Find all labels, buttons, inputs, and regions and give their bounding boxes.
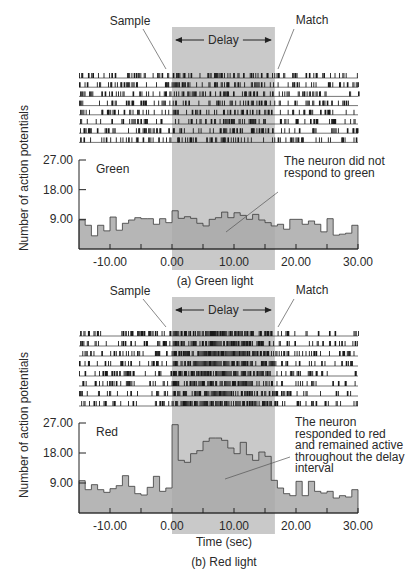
x-tick-label: 20.00 — [281, 255, 311, 269]
y-tick-label: 9.00 — [50, 212, 74, 226]
y-tick-label: 27.00 — [43, 153, 73, 167]
svg-text:respond to green: respond to green — [284, 166, 375, 180]
x-tick-label: -10.00 — [93, 519, 127, 533]
svg-text:interval: interval — [295, 461, 334, 475]
y-axis-label: Number of action potentials — [17, 352, 31, 498]
match-label: Match — [296, 13, 329, 27]
y-tick-label: 18.00 — [43, 183, 73, 197]
figure: 9.0018.0027.00-10.000.0010.0020.0030.00 … — [0, 0, 408, 588]
panel-green-light: 9.0018.0027.00-10.000.0010.0020.0030.00 … — [43, 13, 385, 288]
panel-red-light: 9.0018.0027.00-10.000.0010.0020.0030.00 … — [43, 283, 404, 569]
panel-label: Red — [96, 425, 118, 439]
match-label: Match — [296, 283, 329, 297]
panel-title: (b) Red light — [191, 555, 257, 569]
delay-label: Delay — [208, 303, 239, 317]
panel-label: Green — [96, 162, 129, 176]
sample-label: Sample — [110, 14, 151, 28]
x-tick-label: -10.00 — [93, 255, 127, 269]
x-tick-label: 0.00 — [160, 255, 184, 269]
x-tick-label: 30.00 — [343, 255, 373, 269]
y-tick-label: 27.00 — [43, 416, 73, 430]
y-axis-label: Number of action potentials — [17, 105, 31, 251]
y-tick-label: 18.00 — [43, 446, 73, 460]
x-tick-label: 10.00 — [219, 255, 249, 269]
y-tick-label: 9.00 — [50, 476, 74, 490]
delay-label: Delay — [208, 33, 239, 47]
x-tick-label: 30.00 — [343, 519, 373, 533]
x-tick-label: 0.00 — [160, 519, 184, 533]
sample-label: Sample — [110, 284, 151, 298]
x-tick-label: 20.00 — [281, 519, 311, 533]
x-axis-label: Time (sec) — [196, 535, 252, 549]
x-tick-label: 10.00 — [219, 519, 249, 533]
panel-title: (a) Green light — [177, 274, 254, 288]
